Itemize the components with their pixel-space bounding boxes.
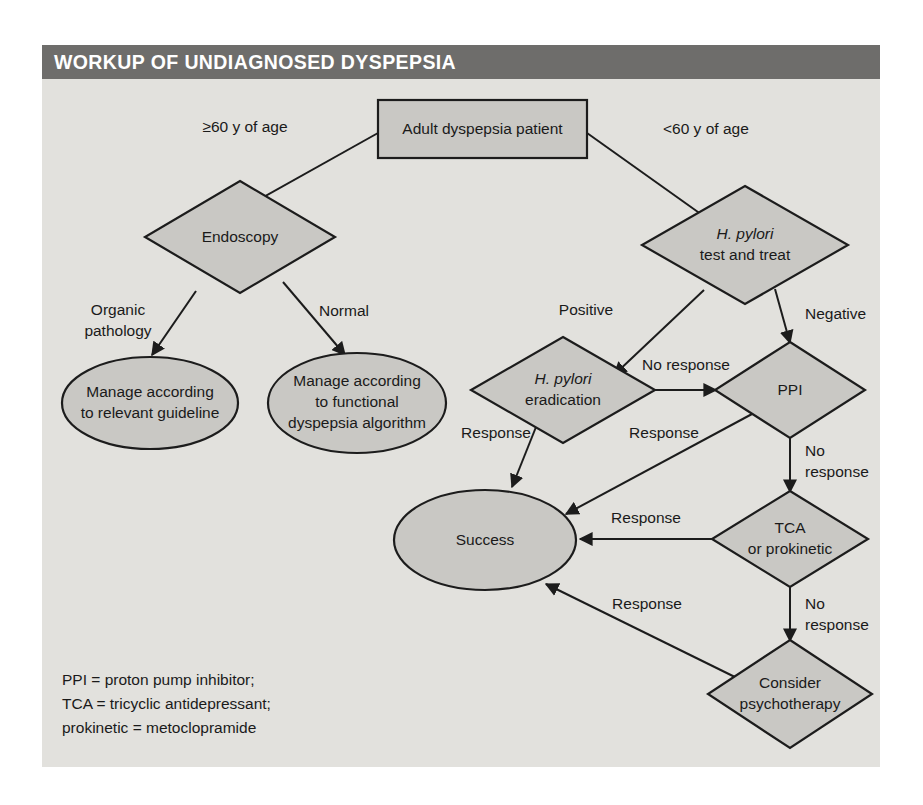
edge-label-negative: Negative (805, 305, 866, 322)
edge-label-response-eradication: Response (461, 424, 531, 441)
node-manage-functional-line1: Manage according (293, 372, 421, 389)
node-success-label: Success (456, 531, 515, 548)
edge-label-response-tca: Response (611, 509, 681, 526)
node-consider-psychotherapy[interactable]: Consider psychotherapy (708, 640, 872, 748)
legend-line-prokinetic: prokinetic = metoclopramide (62, 719, 256, 736)
title-bar: WORKUP OF UNDIAGNOSED DYSPEPSIA (42, 45, 880, 79)
node-psychotherapy-line1: Consider (759, 674, 821, 691)
node-ppi-label: PPI (778, 381, 803, 398)
edge-label-response-ppi: Response (629, 424, 699, 441)
diagram-page: Adult dyspepsia patient Endoscopy H. pyl… (0, 0, 923, 805)
legend-line-ppi: PPI = proton pump inhibitor; (62, 671, 255, 688)
edge-label-organic: Organic (91, 301, 146, 318)
node-ppi[interactable]: PPI (715, 342, 865, 438)
node-manage-relevant-line1: Manage according (86, 383, 214, 400)
node-start-label: Adult dyspepsia patient (402, 120, 563, 137)
edge-label-pathology: pathology (84, 322, 151, 339)
edge-label-response-tca-no: response (805, 616, 869, 633)
edge-endoscopy-to-manage-relevant (152, 291, 196, 355)
edge-hptest-to-ppi (775, 289, 790, 343)
edge-label-no-ppi: No (805, 442, 825, 459)
node-tca-line2: or prokinetic (748, 540, 833, 557)
node-manage-relevant-line2: to relevant guideline (81, 404, 220, 421)
edge-label-no-tca: No (805, 595, 825, 612)
edge-label-response-ppi-no: response (805, 463, 869, 480)
node-hptest-label-line2: test and treat (700, 246, 791, 263)
node-success[interactable]: Success (394, 490, 576, 590)
node-manage-relevant-guideline[interactable]: Manage according to relevant guideline (62, 357, 238, 449)
edge-label-normal: Normal (319, 302, 369, 319)
legend-line-tca: TCA = tricyclic antidepressant; (62, 695, 271, 712)
legend: PPI = proton pump inhibitor; TCA = tricy… (62, 671, 271, 736)
node-hptest-label-line1: H. pylori (717, 225, 774, 242)
node-manage-functional-dyspepsia[interactable]: Manage according to functional dyspepsia… (268, 353, 446, 453)
edge-label-age-ge60: ≥60 y of age (202, 118, 287, 135)
edge-label-age-lt60: <60 y of age (663, 120, 749, 137)
node-eradication-line2: eradication (525, 391, 601, 408)
node-endoscopy-label: Endoscopy (202, 228, 279, 245)
node-eradication-line1: H. pylori (535, 370, 592, 387)
node-endoscopy[interactable]: Endoscopy (145, 181, 335, 293)
page-title: WORKUP OF UNDIAGNOSED DYSPEPSIA (42, 51, 456, 74)
node-adult-dyspepsia-patient[interactable]: Adult dyspepsia patient (378, 100, 587, 158)
node-tca-line1: TCA (775, 519, 807, 536)
node-manage-functional-line2: to functional (315, 393, 399, 410)
edge-label-response-psychotherapy: Response (612, 595, 682, 612)
flowchart-svg: Adult dyspepsia patient Endoscopy H. pyl… (0, 0, 923, 805)
edge-label-positive: Positive (559, 301, 613, 318)
edge-label-no-response-erad: No response (642, 356, 730, 373)
node-manage-functional-line3: dyspepsia algorithm (288, 414, 426, 431)
edge-start-to-hptest (587, 133, 712, 222)
node-hpylori-test-and-treat[interactable]: H. pylori test and treat (642, 186, 848, 304)
node-psychotherapy-line2: psychotherapy (740, 695, 841, 712)
node-tca-or-prokinetic[interactable]: TCA or prokinetic (712, 491, 868, 587)
